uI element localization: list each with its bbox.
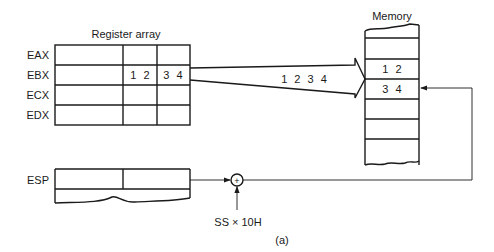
memory-cell-high: 1 2	[382, 63, 403, 75]
esp-register	[55, 169, 190, 203]
register-label-edx: EDX	[26, 109, 49, 121]
memory-title: Memory	[372, 10, 412, 22]
adder-symbol: +	[234, 176, 239, 186]
register-label-ebx: EBX	[27, 69, 50, 81]
transfer-arrow-label: 1 2 3 4	[281, 73, 329, 85]
esp-label: ESP	[27, 174, 49, 186]
memory-cell-low: 3 4	[382, 83, 403, 95]
address-arrow	[243, 88, 472, 180]
push-operation-diagram: Register array EAX EBX ECX EDX 1 2 3 4 1…	[0, 0, 494, 252]
ebx-high-byte: 1 2	[130, 69, 151, 81]
register-array	[55, 45, 190, 125]
figure-caption: (a)	[275, 234, 288, 246]
segment-input-label: SS × 10H	[214, 216, 261, 228]
register-array-title: Register array	[91, 28, 161, 40]
register-label-ecx: ECX	[26, 89, 49, 101]
register-label-eax: EAX	[27, 49, 50, 61]
ebx-low-byte: 3 4	[163, 69, 184, 81]
transfer-arrow	[190, 58, 365, 98]
